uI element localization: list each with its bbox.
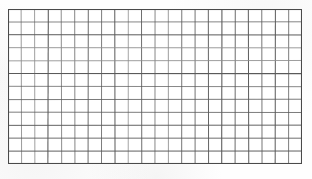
grid-cell[interactable] [155,35,168,48]
grid-cell[interactable] [275,35,288,48]
grid-cell[interactable] [115,22,128,35]
grid-cell[interactable] [75,112,88,125]
grid-cell[interactable] [222,22,235,35]
grid-cell[interactable] [21,74,34,87]
grid-cell[interactable] [235,9,248,22]
grid-cell[interactable] [289,61,302,74]
grid-cell[interactable] [115,61,128,74]
grid-cell[interactable] [21,48,34,61]
grid-cell[interactable] [249,74,262,87]
grid-cell[interactable] [21,138,34,151]
grid-cell[interactable] [168,112,181,125]
grid-cell[interactable] [195,61,208,74]
grid-cell[interactable] [142,151,155,164]
grid-cell[interactable] [289,9,302,22]
grid-cell[interactable] [8,74,21,87]
grid-cell[interactable] [48,9,61,22]
grid-cell[interactable] [8,151,21,164]
grid-cell[interactable] [8,125,21,138]
grid-cell[interactable] [8,9,21,22]
grid-cell[interactable] [155,112,168,125]
grid-cell[interactable] [155,74,168,87]
grid-cell[interactable] [289,138,302,151]
grid-cell[interactable] [115,9,128,22]
grid-cell[interactable] [208,125,221,138]
grid-cell[interactable] [35,87,48,100]
grid-cell[interactable] [275,99,288,112]
grid-cell[interactable] [155,48,168,61]
grid-cell[interactable] [222,87,235,100]
grid-cell[interactable] [155,99,168,112]
grid-cell[interactable] [102,151,115,164]
grid-cell[interactable] [182,9,195,22]
grid-cell[interactable] [128,151,141,164]
grid-cell[interactable] [8,35,21,48]
grid-table[interactable] [8,9,302,164]
grid-cell[interactable] [275,74,288,87]
grid-cell[interactable] [155,151,168,164]
grid-cell[interactable] [155,61,168,74]
grid-cell[interactable] [168,151,181,164]
grid-cell[interactable] [155,22,168,35]
grid-cell[interactable] [88,87,101,100]
grid-cell[interactable] [102,35,115,48]
grid-cell[interactable] [75,151,88,164]
grid-cell[interactable] [128,35,141,48]
grid-cell[interactable] [21,151,34,164]
grid-cell[interactable] [61,151,74,164]
grid-cell[interactable] [128,87,141,100]
grid-cell[interactable] [88,48,101,61]
grid-cell[interactable] [289,125,302,138]
grid-cell[interactable] [275,87,288,100]
grid-cell[interactable] [128,125,141,138]
grid-cell[interactable] [88,125,101,138]
grid-cell[interactable] [61,112,74,125]
grid-cell[interactable] [61,35,74,48]
grid-cell[interactable] [222,125,235,138]
grid-cell[interactable] [235,125,248,138]
grid-cell[interactable] [275,112,288,125]
grid-cell[interactable] [128,74,141,87]
grid-cell[interactable] [35,22,48,35]
grid-cell[interactable] [222,74,235,87]
grid-cell[interactable] [289,99,302,112]
grid-cell[interactable] [249,87,262,100]
grid-cell[interactable] [75,61,88,74]
grid-cell[interactable] [182,48,195,61]
grid-cell[interactable] [48,125,61,138]
grid-cell[interactable] [142,35,155,48]
grid-cell[interactable] [115,48,128,61]
grid-cell[interactable] [222,138,235,151]
grid-cell[interactable] [61,99,74,112]
grid-cell[interactable] [48,35,61,48]
grid-cell[interactable] [235,151,248,164]
grid-cell[interactable] [75,87,88,100]
grid-cell[interactable] [249,99,262,112]
grid-cell[interactable] [222,35,235,48]
grid-cell[interactable] [195,99,208,112]
grid-cell[interactable] [88,138,101,151]
grid-cell[interactable] [262,9,275,22]
grid-cell[interactable] [115,74,128,87]
grid-cell[interactable] [128,61,141,74]
grid-cell[interactable] [142,138,155,151]
grid-cell[interactable] [275,9,288,22]
grid-cell[interactable] [8,48,21,61]
grid-cell[interactable] [195,74,208,87]
grid-cell[interactable] [208,22,221,35]
grid-cell[interactable] [102,87,115,100]
grid-cell[interactable] [208,112,221,125]
grid-cell[interactable] [168,22,181,35]
grid-cell[interactable] [155,87,168,100]
grid-cell[interactable] [182,61,195,74]
grid-cell[interactable] [102,22,115,35]
grid-cell[interactable] [8,22,21,35]
grid-cell[interactable] [249,138,262,151]
grid-cell[interactable] [275,125,288,138]
grid-cell[interactable] [61,125,74,138]
grid-cell[interactable] [195,151,208,164]
grid-cell[interactable] [48,99,61,112]
grid-cell[interactable] [102,99,115,112]
grid-cell[interactable] [182,112,195,125]
grid-cell[interactable] [262,151,275,164]
